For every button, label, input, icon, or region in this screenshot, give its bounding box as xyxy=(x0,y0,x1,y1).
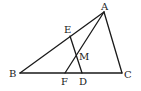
geometry-figure: A B C E M F D xyxy=(0,0,141,91)
label-e: E xyxy=(64,24,71,35)
label-d: D xyxy=(79,76,87,87)
label-f: F xyxy=(61,76,68,87)
segment-ca xyxy=(104,12,122,73)
label-m: M xyxy=(79,51,89,62)
segment-af xyxy=(65,12,104,73)
label-b: B xyxy=(9,68,16,79)
label-a: A xyxy=(100,1,109,12)
segment-ab xyxy=(20,12,104,73)
label-c: C xyxy=(124,69,132,80)
